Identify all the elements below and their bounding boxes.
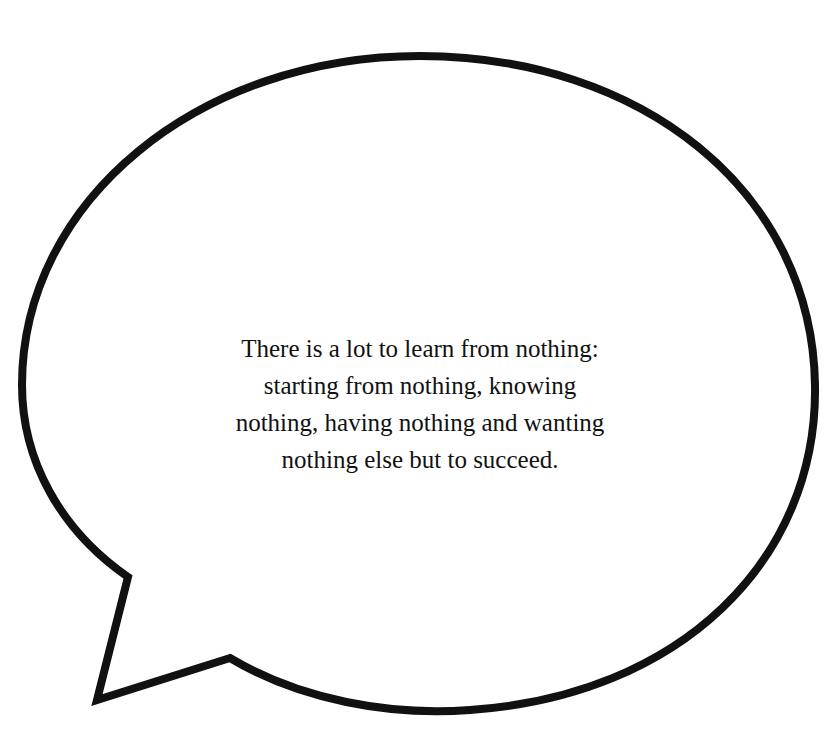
quote-line-3: nothing, having nothing and wanting bbox=[170, 404, 670, 441]
quote-text: There is a lot to learn from nothing: st… bbox=[170, 330, 670, 478]
quote-line-1: There is a lot to learn from nothing: bbox=[170, 330, 670, 367]
quote-line-4: nothing else but to succeed. bbox=[170, 441, 670, 478]
quote-line-2: starting from nothing, knowing bbox=[170, 367, 670, 404]
